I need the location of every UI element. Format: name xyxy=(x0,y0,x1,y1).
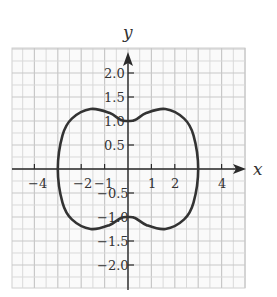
plot-area: x y −4 −2 −1 1 2 4 2.0 1.5 1.0 0.5 −0.5 … xyxy=(0,0,277,297)
x-tick-label: −4 xyxy=(28,176,47,191)
y-tick-label: −2.0 xyxy=(97,258,129,273)
y-tick-label: 2.0 xyxy=(104,66,125,81)
x-tick-label: 2 xyxy=(171,176,179,191)
y-tick-label: −0.5 xyxy=(97,186,129,201)
x-tick-label: 1 xyxy=(148,176,156,191)
y-tick-label: −1.5 xyxy=(97,234,129,249)
x-tick-label: 4 xyxy=(218,176,226,191)
x-axis-label: x xyxy=(253,159,263,179)
y-axis-label: y xyxy=(122,22,133,42)
x-tick-label: −2 xyxy=(73,176,92,191)
y-tick-label: 0.5 xyxy=(104,138,125,153)
y-tick-label: 1.5 xyxy=(104,90,125,105)
